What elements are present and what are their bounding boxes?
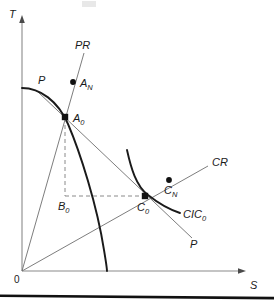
point-cn-label: CN <box>164 184 178 199</box>
point-an-label: AN <box>79 77 93 92</box>
x-axis-label: S <box>250 279 258 291</box>
marker-point-cn[interactable] <box>166 177 172 183</box>
marker-point-an[interactable] <box>70 79 76 85</box>
page-edge-line <box>0 295 274 300</box>
cr-ray-line <box>22 166 208 271</box>
price-line-label-upper: P <box>38 74 46 86</box>
axes <box>19 15 246 274</box>
cr-ray-label: CR <box>212 156 228 168</box>
point-a0-label: A0 <box>72 112 85 127</box>
pr-ray-label: PR <box>75 39 90 51</box>
x-axis-arrow-icon <box>238 268 246 274</box>
ppf-cic-diagram: T S 0 PR P AN A0 B0 CR CN C0 CIC0 P <box>0 0 274 303</box>
y-axis-arrow-icon <box>19 15 25 23</box>
point-c0-label: C0 <box>137 201 150 216</box>
y-axis-label: T <box>9 8 17 20</box>
cic0-curve <box>127 150 180 213</box>
marker-point-a0[interactable] <box>62 114 68 120</box>
origin-label: 0 <box>14 274 20 285</box>
b0-construction-lines <box>65 118 145 196</box>
price-line-label-lower: P <box>190 238 198 250</box>
price-line <box>38 92 192 238</box>
cic0-curve-label: CIC0 <box>183 208 207 223</box>
scan-smudge <box>82 1 96 7</box>
point-b0-label: B0 <box>58 200 70 215</box>
pr-ray-line <box>22 53 84 271</box>
marker-point-c0[interactable] <box>142 193 148 199</box>
